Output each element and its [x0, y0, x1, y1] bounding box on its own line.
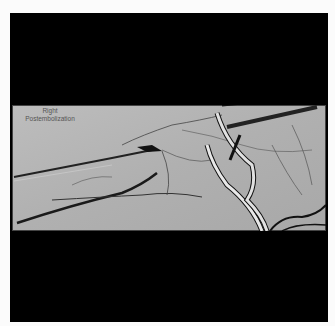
annotation-line1: Right — [20, 107, 80, 115]
image-annotation: Right Postembolization — [20, 107, 80, 123]
annotation-line2: Postembolization — [20, 115, 80, 123]
angiogram-image — [12, 105, 326, 231]
